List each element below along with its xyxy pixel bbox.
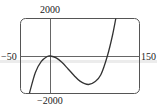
plot-area xyxy=(0,0,157,108)
x-min-label: −50 xyxy=(1,52,17,62)
y-min-label: −2000 xyxy=(37,96,63,106)
x-max-label: 150 xyxy=(141,52,156,62)
y-max-label: 2000 xyxy=(40,5,60,15)
